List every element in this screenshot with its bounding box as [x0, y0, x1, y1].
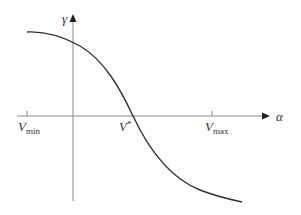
tick-label-vmax-sub: max: [213, 126, 229, 136]
vertical-axis-arrow-icon: [70, 14, 77, 22]
tick-label-vmin-sub: min: [26, 126, 40, 136]
tick-label-vstar: V*: [119, 120, 131, 133]
diagram-canvas: [0, 0, 301, 215]
horizontal-axis-arrow-icon: [262, 113, 270, 120]
tick-label-vmin-main: V: [18, 119, 26, 134]
tick-label-vstar-sup: *: [127, 119, 132, 129]
tick-label-vmin: Vmin: [18, 120, 40, 133]
tick-label-vmax-main: V: [205, 119, 213, 134]
tick-label-vmax: Vmax: [205, 120, 228, 133]
tick-label-vstar-main: V: [119, 119, 127, 134]
y-axis-label: γ: [62, 12, 67, 25]
x-axis-label: α: [276, 110, 283, 123]
gamma-curve: [27, 32, 242, 202]
